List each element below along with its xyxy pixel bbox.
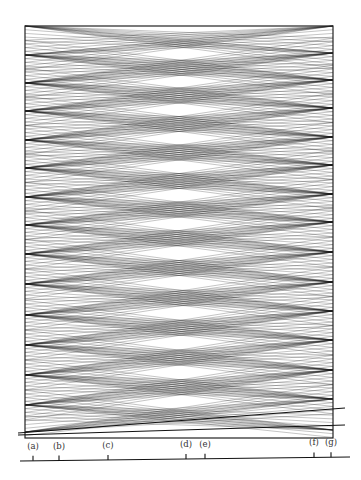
ray-line <box>25 26 333 51</box>
ray-line <box>25 265 333 282</box>
ray-line <box>25 51 333 80</box>
tick-label: (g) <box>325 437 337 447</box>
ray-pattern <box>25 26 333 437</box>
ray-line <box>25 53 333 72</box>
ray-diagram: (a)(b)(c)(d)(e)(f)(g) <box>0 0 361 480</box>
position-axis: (a)(b)(c)(d)(e)(f)(g) <box>20 437 350 461</box>
tick-label: (b) <box>53 441 65 451</box>
ray-line <box>25 370 333 398</box>
tick-label: (d) <box>180 439 192 449</box>
tick-label: (e) <box>199 439 211 449</box>
ray-line <box>25 26 333 49</box>
tick-label: (c) <box>102 440 113 450</box>
ray-line <box>25 401 333 430</box>
ray-line <box>25 254 333 282</box>
ray-line <box>25 26 333 59</box>
tick-label: (f) <box>309 437 319 447</box>
tick-label: (a) <box>27 441 39 451</box>
axis-baseline <box>20 457 350 461</box>
